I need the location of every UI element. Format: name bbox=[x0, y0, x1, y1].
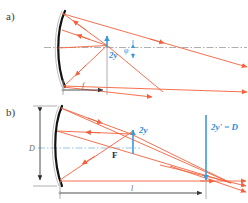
ray-cross-out-1-b bbox=[160, 165, 246, 186]
ray-bottom-to-focus-b bbox=[60, 131, 133, 180]
ray-mid-to-image-b bbox=[57, 131, 231, 183]
object-height-label-b: 2y bbox=[138, 125, 149, 135]
ray-cross-out-2-b bbox=[170, 166, 246, 192]
incoming-ray-1-dirmark-a bbox=[150, 39, 162, 43]
optics-figure: a) 2y φ f bbox=[0, 0, 248, 203]
panel-b-group: b) D 2y F 2y' = D l bbox=[6, 106, 246, 199]
panel-a-group: a) 2y φ f bbox=[6, 10, 247, 97]
reflected-ray-top-dirmark-a bbox=[75, 22, 86, 30]
focal-point-label-b: F bbox=[112, 150, 118, 160]
panel-a-label: a) bbox=[6, 10, 15, 23]
figure-canvas: a) 2y φ f bbox=[0, 0, 248, 203]
mirror-reflective-surface-a bbox=[58, 11, 65, 87]
ray-focus-to-image-upper-b bbox=[131, 134, 231, 183]
reflected-ray-bottom-dirmark-a bbox=[77, 65, 86, 74]
panel-b-label: b) bbox=[6, 106, 16, 119]
mirror-reflective-surface-b bbox=[55, 106, 62, 186]
aperture-diameter-label-b: D bbox=[28, 144, 35, 153]
ray-axial-dirmark-b bbox=[88, 132, 100, 133]
field-angle-label-a: φ bbox=[124, 46, 129, 55]
chief-ray-upper-dirmark-a bbox=[79, 36, 90, 40]
image-height-label-a: 2y bbox=[108, 50, 119, 60]
projected-height-label-b: 2y' = D bbox=[210, 122, 239, 132]
projection-distance-label-b: l bbox=[131, 184, 134, 193]
focal-length-label-a: f bbox=[82, 81, 86, 90]
ray-bottom-to-focus-dirmark-b bbox=[84, 156, 95, 163]
incoming-ray-2-a bbox=[63, 86, 247, 92]
